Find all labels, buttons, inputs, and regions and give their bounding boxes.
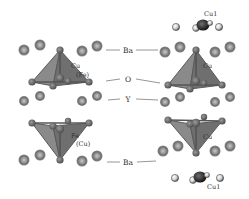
site-label-lower-left: Fe: [71, 132, 79, 140]
label-o: O: [125, 75, 131, 84]
alt-site-label-upper-left: (Fe): [76, 71, 90, 79]
crystal-structure-figure: Cu (Fe) Cu Fe (Cu): [0, 0, 249, 199]
site-label-upper-left: Cu: [71, 62, 80, 70]
label-cu1-top: Cu1: [204, 10, 217, 18]
alt-site-label-lower-left: (Cu): [76, 140, 91, 148]
cu1-chain-bottom: [171, 172, 223, 184]
label-ba-top: Ba: [123, 46, 134, 55]
cu1-chain-top: [172, 20, 222, 32]
label-ba-bottom: Ba: [123, 158, 134, 167]
leader-lines: [106, 50, 160, 162]
site-label-upper-right: Cu: [203, 62, 212, 70]
label-y: Y: [125, 95, 132, 104]
site-label-lower-right: Cu: [203, 133, 212, 141]
label-cu1-bottom: Cu1: [207, 183, 220, 191]
